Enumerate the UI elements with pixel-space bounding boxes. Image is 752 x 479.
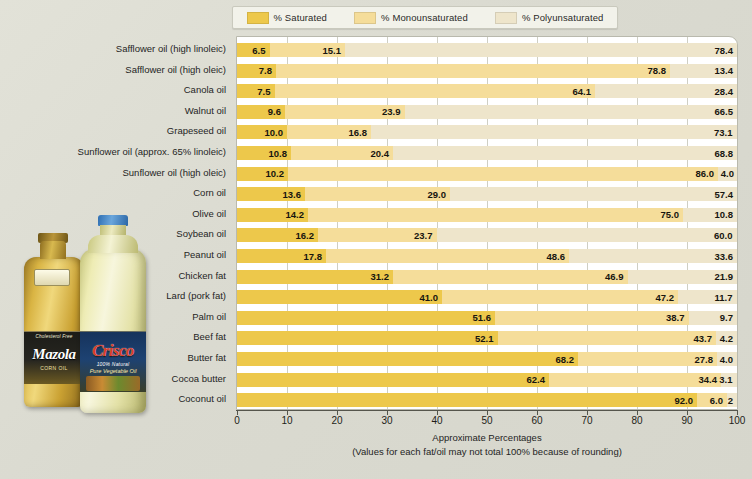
gridline-100	[737, 37, 738, 409]
axis-tick-label-90: 90	[681, 415, 692, 426]
bar-value-label: 60.0	[714, 230, 733, 241]
bar-segment-0: 31.2	[237, 270, 393, 284]
bar-value-label: 73.1	[714, 127, 733, 138]
bar-segment-1: 34.4	[549, 373, 721, 387]
bar-segment-1: 16.8	[287, 125, 371, 139]
bar-row: 7.878.813.4	[237, 64, 737, 78]
bar-segment-1: 6.0	[697, 393, 727, 407]
axis-caption: Approximate Percentages (Values for each…	[236, 431, 738, 459]
bar-value-label: 10.2	[266, 168, 285, 179]
axis-tick-label-70: 70	[581, 415, 592, 426]
chart-background: % Saturated% Monounsaturated% Polyunsatu…	[0, 0, 752, 479]
mazola-label: Cholesterol Free Mazola CORN OIL	[24, 331, 84, 384]
bar-segment-2: 9.7	[689, 311, 738, 325]
bar-segment-1: 75.0	[308, 208, 683, 222]
caption-line-2: (Values for each fat/oil may not total 1…	[236, 445, 738, 459]
category-label-2: Canola oil	[184, 83, 226, 97]
bar-segment-1: 47.2	[442, 290, 678, 304]
bar-value-label: 7.8	[259, 65, 272, 76]
bar-value-label: 34.4	[699, 374, 718, 385]
bar-segment-0: 16.2	[237, 228, 318, 242]
bar-segment-2: 21.9	[628, 270, 738, 284]
oil-bottles-photo: Cholesterol Free Mazola CORN OIL Crisco …	[14, 243, 162, 413]
bar-value-label: 9.7	[720, 312, 733, 323]
bar-segment-1: 48.6	[326, 249, 569, 263]
axis-tick-label-40: 40	[431, 415, 442, 426]
bar-value-label: 10.0	[265, 127, 284, 138]
bar-segment-2: 33.6	[569, 249, 737, 263]
bar-value-label: 28.4	[715, 86, 734, 97]
bar-segment-0: 51.6	[237, 311, 495, 325]
legend-label-0: % Saturated	[274, 12, 327, 23]
bar-segment-2: 60.0	[437, 228, 737, 242]
bar-value-label: 62.4	[527, 374, 546, 385]
category-label-11: Chicken fat	[178, 269, 226, 283]
bar-value-label: 23.9	[382, 106, 401, 117]
bar-value-label: 68.8	[715, 148, 734, 159]
category-label-12: Lard (pork fat)	[166, 289, 226, 303]
crisco-bottle-image: Crisco 100% Natural Pure Vegetable Oil	[80, 249, 146, 413]
bar-segment-2: 4.2	[716, 331, 737, 345]
category-label-13: Palm oil	[192, 310, 226, 324]
category-label-10: Peanut oil	[184, 248, 226, 262]
bar-segment-2: 66.5	[405, 105, 738, 119]
plot-area: 6.515.178.47.878.813.47.564.128.49.623.9…	[236, 36, 738, 410]
bar-segment-1: 38.7	[495, 311, 689, 325]
bar-segment-0: 41.0	[237, 290, 442, 304]
bar-segment-0: 52.1	[237, 331, 498, 345]
bar-value-label: 16.8	[349, 127, 368, 138]
bar-segment-1: 86.0	[288, 167, 718, 181]
bar-value-label: 57.4	[715, 189, 734, 200]
category-label-5: Sunflower oil (approx. 65% linoleic)	[78, 145, 226, 159]
bar-value-label: 51.6	[473, 312, 492, 323]
bar-segment-2: 78.4	[345, 43, 737, 57]
bar-value-label: 17.8	[304, 251, 323, 262]
bar-segment-1: 64.1	[275, 84, 596, 98]
axis-tick-label-50: 50	[481, 415, 492, 426]
bar-value-label: 2	[728, 395, 733, 406]
bar-segment-1: 29.0	[305, 187, 450, 201]
bar-row: 16.223.760.0	[237, 228, 737, 242]
axis-tick-label-100: 100	[729, 415, 746, 426]
bar-row: 62.434.43.1	[237, 373, 737, 387]
category-label-16: Cocoa butter	[172, 372, 226, 386]
legend-label-2: % Polyunsaturated	[522, 12, 603, 23]
bar-segment-0: 7.5	[237, 84, 275, 98]
bar-row: 10.016.873.1	[237, 125, 737, 139]
bar-segment-0: 68.2	[237, 352, 578, 366]
bar-segment-0: 62.4	[237, 373, 549, 387]
bar-segment-2: 28.4	[595, 84, 737, 98]
bar-segment-1: 23.9	[285, 105, 405, 119]
crisco-shoulder	[88, 235, 138, 253]
bar-segment-0: 13.6	[237, 187, 305, 201]
category-label-1: Safflower oil (high oleic)	[125, 63, 226, 77]
bar-segment-2: 13.4	[670, 64, 737, 78]
bar-value-label: 38.7	[666, 312, 685, 323]
axis-tick-label-0: 0	[234, 415, 240, 426]
category-label-7: Corn oil	[193, 186, 226, 200]
bar-value-label: 16.2	[296, 230, 315, 241]
bar-row: 10.286.04.0	[237, 167, 737, 181]
bar-segment-2: 10.8	[683, 208, 737, 222]
legend-item-0: % Saturated	[247, 12, 327, 24]
bar-value-label: 47.2	[656, 292, 675, 303]
category-label-17: Coconut oil	[178, 392, 226, 406]
bar-value-label: 3.1	[719, 374, 732, 385]
mazola-seal	[34, 269, 70, 286]
caption-line-1: Approximate Percentages	[236, 431, 738, 445]
bar-value-label: 48.6	[547, 251, 566, 262]
bar-rows: 6.515.178.47.878.813.47.564.128.49.623.9…	[237, 37, 737, 409]
mazola-bottle-image: Cholesterol Free Mazola CORN OIL	[24, 257, 84, 407]
legend-label-1: % Monounsaturated	[381, 12, 468, 23]
bar-segment-1: 27.8	[578, 352, 717, 366]
bar-value-label: 15.1	[323, 45, 342, 56]
bar-segment-1: 43.7	[498, 331, 717, 345]
bar-segment-2: 68.8	[393, 146, 737, 160]
bar-segment-2: 73.1	[371, 125, 737, 139]
bar-segment-0: 14.2	[237, 208, 308, 222]
axis-tick-label-60: 60	[531, 415, 542, 426]
bar-value-label: 33.6	[715, 251, 734, 262]
legend-swatch-icon-0	[247, 12, 269, 24]
bar-segment-0: 6.5	[237, 43, 270, 57]
bar-row: 7.564.128.4	[237, 84, 737, 98]
